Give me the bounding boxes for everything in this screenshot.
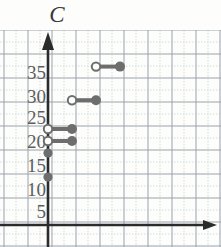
grid-plot-area: 35 30 25 20 15 10 5 bbox=[0, 30, 221, 247]
y-tick-label: 10 bbox=[27, 179, 46, 200]
closed-endpoint-marker bbox=[67, 124, 77, 134]
graph-svg: 35 30 25 20 15 10 5 bbox=[0, 30, 221, 247]
closed-endpoint-marker bbox=[91, 95, 101, 105]
y-tick-label: 35 bbox=[27, 62, 46, 83]
open-endpoint-marker bbox=[92, 62, 100, 70]
closed-endpoint-marker bbox=[115, 62, 125, 72]
open-endpoint-marker bbox=[44, 125, 52, 133]
y-tick-label: 25 bbox=[27, 107, 46, 128]
y-tick-label: 30 bbox=[27, 86, 46, 107]
graph-screenshot: C bbox=[0, 0, 221, 247]
open-endpoint-marker bbox=[68, 96, 76, 104]
closed-endpoint-marker bbox=[43, 172, 52, 181]
y-tick-label: 5 bbox=[37, 201, 47, 222]
vertical-axis-label: C bbox=[42, 1, 72, 29]
closed-endpoint-marker bbox=[67, 136, 77, 146]
closed-endpoint-marker bbox=[43, 148, 52, 157]
y-tick-label: 15 bbox=[27, 155, 46, 176]
open-endpoint-marker bbox=[44, 137, 52, 145]
